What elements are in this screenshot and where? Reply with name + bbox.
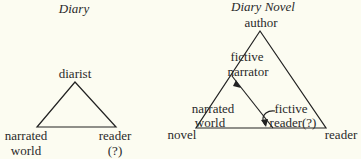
diagram-canvas: Diary diarist narrated world reader (?) … [0, 0, 361, 159]
diary-novel-title: Diary Novel [230, 0, 295, 14]
diary-triangle [37, 82, 116, 127]
diary-title: Diary [58, 1, 90, 16]
inner-narrated-label: narrated [192, 101, 235, 116]
inner-fictive-label: fictive [274, 101, 307, 116]
author-label: author [244, 15, 278, 30]
narrated-label: narrated [5, 128, 48, 143]
novel-label: novel [168, 127, 197, 142]
diary-diagram: Diary diarist narrated world reader (?) [5, 1, 132, 158]
reader-arrow-icon [261, 119, 268, 127]
inner-reader-label: reader(?) [270, 115, 317, 130]
reader-question-label: (?) [108, 143, 122, 158]
reader-label: reader [99, 128, 132, 143]
outer-reader-label: reader [325, 127, 358, 142]
diary-novel-diagram: Diary Novel author fictive narrator narr… [168, 0, 358, 142]
inner-world-label: world [195, 115, 226, 130]
diarist-label: diarist [59, 66, 92, 81]
narrator-label: narrator [227, 64, 269, 79]
narrator-arrow-icon [233, 80, 241, 88]
world-label: world [11, 143, 42, 158]
fictive-label: fictive [230, 49, 263, 64]
